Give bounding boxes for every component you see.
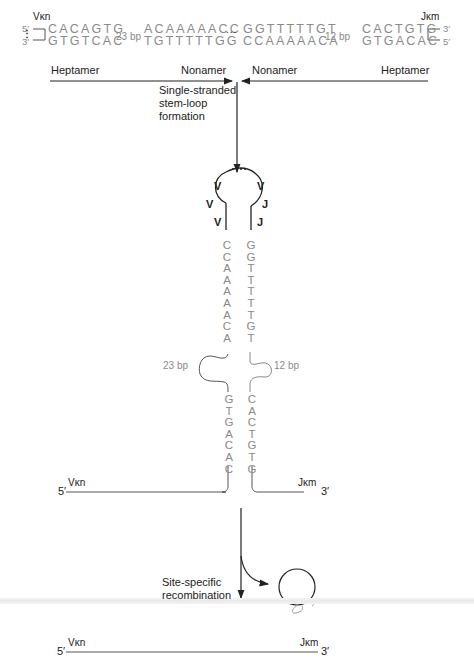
right-segment-label: Jκm xyxy=(421,11,439,22)
product-v-segment: Vκn xyxy=(68,637,85,648)
left-spacer-label: 23 bp xyxy=(116,31,141,42)
right-bottom-end: 5′ xyxy=(443,36,450,47)
scan-band xyxy=(0,598,474,604)
loop-v-label-4: V xyxy=(257,180,264,192)
left-segment-label: Vκn xyxy=(33,11,50,22)
loop-v-label-1: V xyxy=(214,180,221,192)
loop-v-label-3: V xyxy=(214,216,221,228)
product-3prime-end: 3′ xyxy=(321,645,329,657)
stem-j-segment: Jκm xyxy=(298,477,316,488)
right-spacer-label: 12 bp xyxy=(325,31,350,42)
stem-v-segment: Vκn xyxy=(68,477,85,488)
stem-right-heptamer: CAC TGT G xyxy=(246,394,258,475)
left-bracket xyxy=(33,29,45,40)
right-heptamer-label: Heptamer xyxy=(381,64,429,76)
left-dots: ⋮ xyxy=(22,28,32,39)
left-heptamer-label: Heptamer xyxy=(51,64,99,76)
left-nonamer-label: Nonamer xyxy=(181,64,226,76)
stem-left-spacer-label: 23 bp xyxy=(163,360,188,371)
loop-j-label-1: J xyxy=(262,198,268,210)
right-top-end: 3′ xyxy=(443,23,450,34)
right-nonamer-label: Nonamer xyxy=(252,64,297,76)
stem-right-spacer-label: 12 bp xyxy=(274,360,299,371)
excision-arrow xyxy=(241,556,268,584)
left-nonamer-bottom: TGTTTTTGG xyxy=(144,36,239,47)
step2-label: Site-specific recombination xyxy=(162,576,231,602)
loop-j-label-2: J xyxy=(257,216,263,228)
stem-5prime-end: 5′ xyxy=(58,485,66,497)
ellipsis: ... xyxy=(226,24,237,35)
stem-right-nonamer: GGT TTT TGT xyxy=(245,240,257,344)
step1-label: Single-stranded stem-loop formation xyxy=(159,84,236,123)
product-j-segment: Jκm xyxy=(300,637,318,648)
diagram-lines xyxy=(0,0,474,668)
right-heptamer-bottom: GTGACAC xyxy=(362,36,439,47)
loop-v-label-2: V xyxy=(206,198,213,210)
stem-left-heptamer: GTG ACA C xyxy=(223,394,235,475)
stem-left-nonamer: CCA AAA ACA xyxy=(221,240,233,344)
stem-3prime-end: 3′ xyxy=(321,485,329,497)
product-5prime-end: 5′ xyxy=(57,645,65,657)
left-heptamer-bottom: GTGTCAC xyxy=(48,36,125,47)
